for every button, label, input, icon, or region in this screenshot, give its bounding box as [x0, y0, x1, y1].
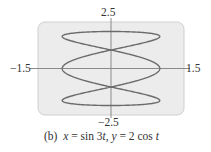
caption-eq-x: = sin 3	[68, 130, 102, 142]
x-min-label: −1.5	[10, 62, 31, 74]
y-max-label: 2.5	[101, 6, 115, 18]
caption-var-t: t	[156, 130, 159, 142]
y-min-label: −2.5	[98, 116, 119, 128]
figure-caption: (b) x = sin 3t, y = 2 cos t	[44, 130, 159, 142]
x-max-label: 1.5	[186, 62, 200, 74]
caption-eq-y: = 2 cos	[117, 130, 156, 142]
caption-prefix: (b)	[44, 130, 57, 142]
